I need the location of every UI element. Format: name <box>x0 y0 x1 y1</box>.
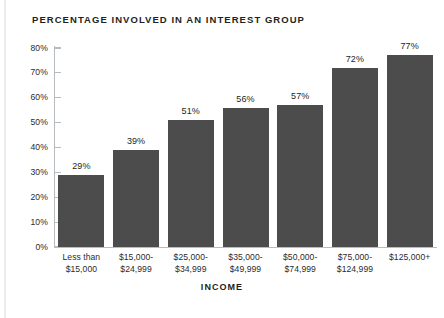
bar-value-label: 57% <box>270 91 330 101</box>
bar-value-label: 39% <box>106 136 166 146</box>
bar-value-label: 72% <box>325 54 385 64</box>
y-axis-tick <box>54 72 61 73</box>
x-axis-category-label: $125,000+ <box>376 252 444 264</box>
bar-chart-figure: PERCENTAGE INVOLVED IN AN INTEREST GROUP… <box>0 0 444 318</box>
plot-area: 0%10%20%30%40%50%60%70%80% 29%39%51%56%5… <box>0 0 444 318</box>
y-axis-tick <box>54 97 61 98</box>
y-axis-tick-label: 40% <box>0 142 48 152</box>
bar <box>58 175 104 247</box>
y-axis-tick <box>54 47 61 48</box>
y-axis-tick-label: 80% <box>0 43 48 53</box>
bar-value-label: 77% <box>380 41 440 51</box>
bar-value-label: 51% <box>161 106 221 116</box>
y-axis-tick <box>54 147 61 148</box>
y-axis-tick-label: 0% <box>0 242 48 252</box>
y-axis-tick <box>54 122 61 123</box>
bar <box>332 68 378 247</box>
y-axis-tick-label: 70% <box>0 67 48 77</box>
y-axis-tick-label: 30% <box>0 167 48 177</box>
bar <box>387 55 433 247</box>
x-axis-title: INCOME <box>0 282 444 292</box>
bar-value-label: 29% <box>51 161 111 171</box>
y-axis-tick-label: 20% <box>0 192 48 202</box>
bar <box>168 120 214 247</box>
bar <box>277 105 323 247</box>
bar <box>113 150 159 247</box>
y-axis-tick-label: 60% <box>0 92 48 102</box>
y-axis-tick-label: 50% <box>0 117 48 127</box>
bar-value-label: 56% <box>216 94 276 104</box>
y-axis-tick <box>54 172 61 173</box>
bar <box>223 108 269 247</box>
y-axis-tick-label: 10% <box>0 217 48 227</box>
